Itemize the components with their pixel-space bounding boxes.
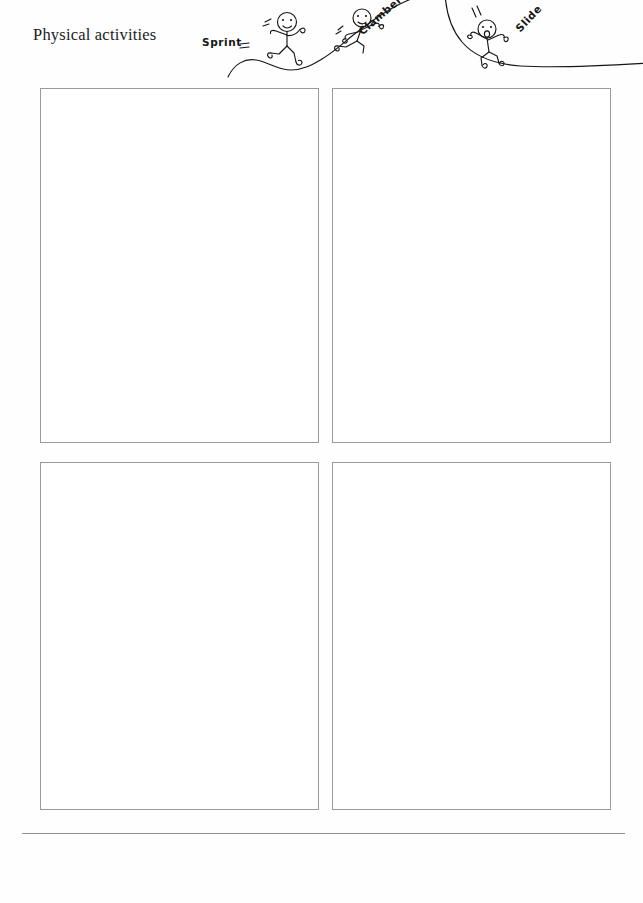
activity-boxes-grid — [40, 88, 611, 810]
page-header: Physical activities — [0, 0, 643, 82]
activity-box-4[interactable] — [332, 462, 611, 810]
activity-box-3[interactable] — [40, 462, 319, 810]
worksheet-page: Physical activities — [0, 0, 643, 903]
equals-sign-icon — [239, 41, 251, 51]
activity-label-sprint: Sprint — [202, 36, 242, 48]
header-illustration — [0, 0, 643, 82]
page-footer: When you're tiny, you have to improvise… — [0, 834, 643, 903]
activity-box-2[interactable] — [332, 88, 611, 443]
activity-box-1[interactable] — [40, 88, 319, 443]
